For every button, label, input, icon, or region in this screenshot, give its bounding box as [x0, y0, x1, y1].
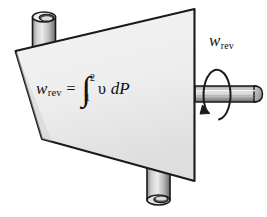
rotating-shaft: [195, 86, 263, 102]
device-diagram: [0, 0, 267, 217]
outlet-pipe-bore-highlight: [156, 197, 167, 201]
inlet-pipe-bore-highlight: [41, 16, 52, 20]
figure-root: wrev = ∫ 2 1 υ dP wrev: [0, 0, 267, 217]
shaft-end-cap: [254, 86, 263, 102]
